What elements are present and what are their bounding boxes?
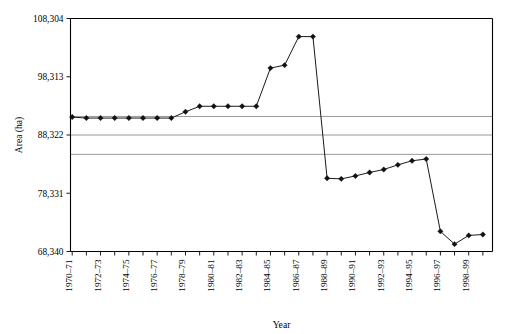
data-point-13 <box>254 104 259 109</box>
data-point-9 <box>197 104 202 109</box>
y-tick-label-3: 78,331 <box>38 189 64 199</box>
x-tick-label-0: 1970–71 <box>64 259 74 292</box>
data-point-18 <box>324 176 329 181</box>
x-tick-label-1: 1972–73 <box>93 259 103 292</box>
y-axis-tick-labels: 108,30498,31388,32278,33168,340 <box>33 14 64 257</box>
x-axis-title: Year <box>273 319 291 330</box>
gridlines <box>71 116 493 154</box>
x-tick-label-8: 1986–87 <box>291 259 301 292</box>
x-tick-label-3: 1976–77 <box>149 259 159 292</box>
x-tick-label-11: 1992–93 <box>376 259 386 292</box>
data-point-20 <box>353 173 358 178</box>
data-point-29 <box>480 232 485 237</box>
data-point-25 <box>424 156 429 161</box>
y-axis-title: Area (ha) <box>13 117 25 153</box>
x-axis-tick-labels: 1970–711972–731974–751976–771978–791980–… <box>64 259 471 292</box>
data-point-19 <box>339 176 344 181</box>
y-tick-label-4: 68,340 <box>38 247 64 257</box>
data-point-8 <box>183 109 188 114</box>
data-point-11 <box>225 104 230 109</box>
data-point-16 <box>296 34 301 39</box>
y-tick-label-1: 98,313 <box>38 72 64 82</box>
data-point-21 <box>367 170 372 175</box>
y-tick-label-2: 88,322 <box>38 130 64 140</box>
y-tick-label-0: 108,304 <box>33 14 64 24</box>
data-point-24 <box>409 158 414 163</box>
line-chart: 108,30498,31388,32278,33168,340 1970–711… <box>0 0 509 334</box>
data-point-17 <box>310 34 315 39</box>
x-tick-label-13: 1996–97 <box>432 259 442 292</box>
x-tick-label-6: 1982–83 <box>234 259 244 292</box>
data-point-10 <box>211 104 216 109</box>
data-point-28 <box>466 233 471 238</box>
data-point-markers <box>69 34 485 247</box>
x-axis-ticks <box>72 252 483 256</box>
x-tick-label-14: 1998–99 <box>461 259 471 292</box>
x-tick-label-5: 1980–81 <box>206 259 216 292</box>
data-series-line <box>72 37 483 245</box>
x-tick-label-2: 1974–75 <box>121 259 131 292</box>
data-point-15 <box>282 62 287 67</box>
y-axis-ticks <box>67 19 71 252</box>
x-tick-label-7: 1984–85 <box>262 259 272 292</box>
x-tick-label-10: 1990–91 <box>347 259 357 292</box>
data-point-22 <box>381 167 386 172</box>
x-tick-label-9: 1988–89 <box>319 259 329 292</box>
data-point-14 <box>268 65 273 70</box>
x-tick-label-4: 1978–79 <box>177 259 187 292</box>
x-tick-label-12: 1994–95 <box>404 259 414 292</box>
data-point-23 <box>395 162 400 167</box>
data-point-12 <box>239 104 244 109</box>
chart-container: 108,30498,31388,32278,33168,340 1970–711… <box>0 0 509 334</box>
